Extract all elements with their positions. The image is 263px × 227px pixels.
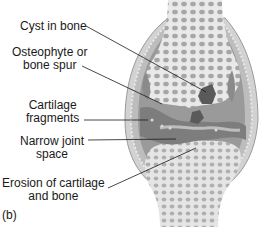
label-text: and bone [2, 190, 105, 203]
label-cyst-in-bone: Cyst in bone [20, 20, 87, 33]
label-cartilage-fragments: Cartilage fragments [26, 99, 79, 125]
label-text: Cyst in bone [20, 20, 87, 33]
label-erosion: Erosion of cartilage and bone [2, 177, 105, 203]
label-text: fragments [26, 112, 79, 125]
label-text: space [20, 148, 84, 161]
upper-bone [144, 0, 240, 108]
panel-label: (b) [2, 208, 17, 222]
label-narrow-joint-space: Narrow joint space [20, 135, 84, 161]
lower-bone [145, 140, 241, 227]
label-text: bone spur [12, 59, 87, 72]
label-osteophyte: Osteophyte or bone spur [12, 46, 87, 72]
